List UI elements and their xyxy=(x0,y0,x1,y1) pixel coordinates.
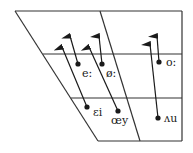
arrow-au xyxy=(150,44,158,118)
point-oe-long xyxy=(99,61,104,66)
point-oey xyxy=(115,108,120,113)
point-au xyxy=(155,115,160,120)
label-oe-long: ø: xyxy=(106,67,116,80)
arrow-oe-long xyxy=(99,36,102,64)
trapezoid-frame xyxy=(15,11,182,141)
point-o-long xyxy=(156,59,161,64)
point-e-long xyxy=(75,61,80,66)
label-o-long: o: xyxy=(166,56,176,69)
label-ei: ɛi xyxy=(93,106,103,119)
label-au: ʌu xyxy=(163,112,177,125)
label-e-long: e: xyxy=(82,67,92,80)
point-ei xyxy=(84,104,89,109)
label-oey: œy xyxy=(111,114,129,127)
vowel-trapezoid-diagram: e: ø: o: ɛi œy ʌu xyxy=(0,0,193,153)
arrow-e-long xyxy=(70,36,78,64)
arrow-o-long xyxy=(157,36,159,62)
